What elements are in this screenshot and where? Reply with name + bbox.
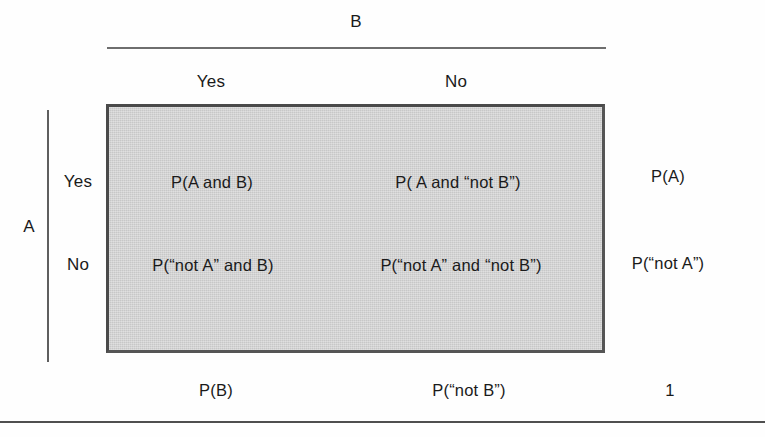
column-margin-yes: P(B) [199,381,233,400]
column-header-rule [107,47,606,49]
column-header-no: No [445,72,467,92]
column-margin-no: P(“not B”) [432,381,506,400]
cell-no-yes: P(“not A” and B) [152,256,274,275]
grand-total: 1 [665,381,674,400]
row-header-yes: Yes [64,172,92,192]
cell-no-no: P(“not A” and “not B”) [380,256,541,275]
cell-yes-yes: P(A and B) [171,173,253,192]
joint-probability-region [106,104,605,353]
column-header-yes: Yes [197,72,225,92]
row-variable-label: A [23,217,35,237]
cell-yes-no: P( A and “not B”) [395,173,520,192]
row-header-no: No [67,255,89,275]
row-margin-no: P(“not A”) [632,254,705,273]
joint-probability-table-figure: B Yes No A Yes No P(A and B) P( A and “n… [0,0,765,437]
column-variable-label: B [350,12,362,32]
row-margin-yes: P(A) [651,167,685,186]
row-header-rule [47,110,49,362]
figure-footer-rule [0,421,765,423]
